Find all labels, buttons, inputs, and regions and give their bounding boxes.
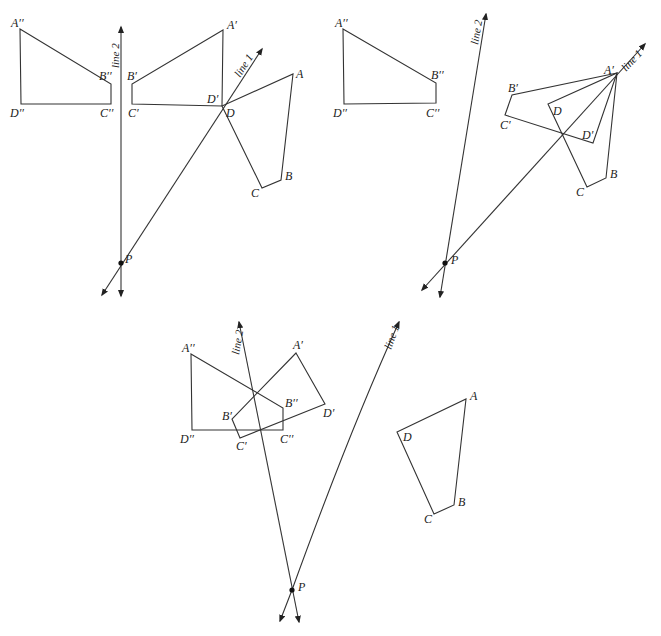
label-A2: A′′ (334, 16, 348, 30)
label-A1: A′ (292, 338, 303, 352)
label-B1: B′ (508, 81, 518, 95)
quadrilateral-A1B1C1D1 (232, 353, 325, 438)
label-A1: A′ (226, 18, 237, 32)
label-P: P (450, 253, 459, 267)
label-D2: D′′ (9, 106, 24, 120)
label-C1: C′ (128, 106, 139, 120)
line-1 (280, 322, 399, 621)
label-P: P (124, 252, 133, 266)
label-D2: D′′ (332, 106, 347, 120)
label-B1: B′ (127, 69, 137, 83)
panel-bottom: P line 2 line 1 A B C D A′ B′ C′ D′ A′′ … (179, 322, 478, 622)
label-D2: D′′ (179, 432, 194, 446)
label-C: C (424, 512, 433, 526)
reflection-diagrams: P line 2 line 1 A B C D A′ B′ C′ D′ A′′ … (0, 0, 661, 636)
point-P (289, 587, 294, 592)
label-B2: B′′ (431, 68, 444, 82)
label-line-2: line 2 (229, 328, 245, 355)
panel-top-right: P line 2 line 1 B C D A′ B′ C′ D′ A′′ B′… (332, 14, 645, 297)
line-2 (239, 322, 299, 622)
point-P (442, 260, 447, 265)
label-A: A (295, 67, 304, 81)
label-A: A (469, 389, 478, 403)
label-A2: A′′ (181, 341, 195, 355)
label-line-1: line 1 (382, 323, 402, 350)
label-B: B (285, 169, 293, 183)
label-P: P (297, 580, 306, 594)
label-D1: D′ (581, 128, 594, 142)
label-D: D (552, 104, 562, 118)
label-C1: C′ (236, 439, 247, 453)
label-B: B (610, 167, 618, 181)
point-P (118, 260, 123, 265)
label-D1: D′ (322, 406, 335, 420)
label-C: C (576, 185, 585, 199)
label-A2: A′′ (10, 16, 24, 30)
quadrilateral-A2B2C2D2 (20, 29, 111, 104)
quadrilateral-A2B2C2D2 (191, 354, 283, 430)
line-2 (440, 14, 486, 297)
label-C: C (251, 186, 260, 200)
panel-top-left: P line 2 line 1 A B C D A′ B′ C′ D′ A′′ … (9, 16, 304, 296)
label-line-2: line 2 (109, 43, 121, 68)
label-A1: A′ (603, 63, 614, 77)
label-C1: C′ (500, 118, 511, 132)
label-C2: C′′ (280, 432, 294, 446)
label-C2: C′′ (100, 106, 114, 120)
label-line-1: line 1 (619, 47, 645, 73)
label-B1: B′ (222, 409, 232, 423)
label-C2: C′′ (426, 106, 440, 120)
quadrilateral-A2B2C2D2 (343, 29, 436, 104)
quadrilateral-ABCD (397, 399, 466, 514)
label-B2: B′′ (285, 396, 298, 410)
label-D: D (402, 430, 412, 444)
label-B: B (458, 495, 466, 509)
label-D: D (225, 106, 235, 120)
label-D1: D′ (206, 92, 219, 106)
quadrilateral-ABCD (222, 74, 293, 188)
label-B2: B′′ (99, 69, 112, 83)
